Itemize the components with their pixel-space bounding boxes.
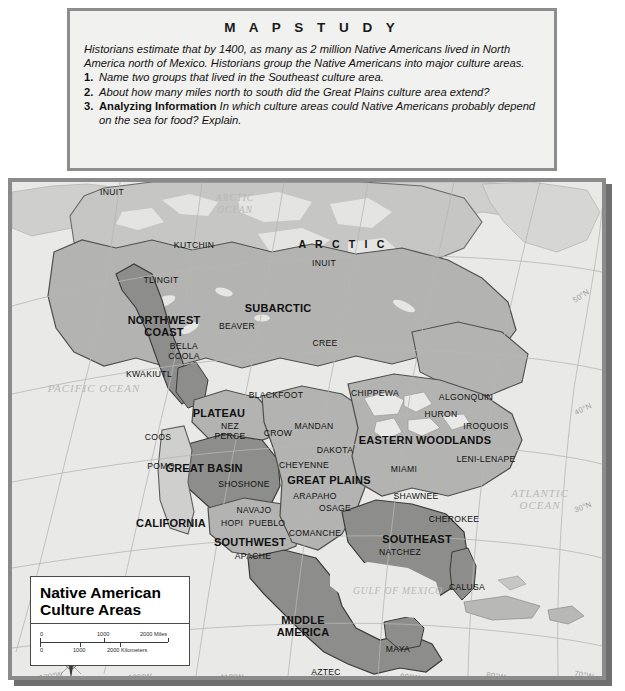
scale-tick <box>168 638 169 642</box>
question-text: Name two groups that lived in the Southe… <box>99 71 540 85</box>
question-text: Analyzing Information In which culture a… <box>99 100 540 127</box>
legend-divider <box>31 623 189 624</box>
question-lead-in: Analyzing Information <box>99 100 216 112</box>
map-legend-title: Native American Culture Areas <box>31 577 189 622</box>
question-number: 3. <box>84 100 99 127</box>
question-number: 2. <box>84 86 99 100</box>
compass-south-label: S <box>70 677 73 680</box>
scale-km-end: 2000 Kilometers <box>107 647 147 653</box>
question-number: 1. <box>84 71 99 85</box>
map-study-body: Historians estimate that by 1400, as man… <box>70 43 554 128</box>
map-study-box: M A P S T U D Y Historians estimate that… <box>67 8 557 171</box>
map-study-title: M A P S T U D Y <box>70 20 554 35</box>
legend-title-line-2: Culture Areas <box>40 601 180 618</box>
map-study-question-1: 1. Name two groups that lived in the Sou… <box>84 71 540 85</box>
question-text: About how many miles north to south did … <box>99 86 540 100</box>
map-study-question-2: 2. About how many miles north to south d… <box>84 86 540 100</box>
map-scale-bar: 0 1000 2000 Miles 0 1000 2000 Kilometers <box>40 628 180 664</box>
scale-tick <box>104 638 105 642</box>
scale-km-zero: 0 <box>40 647 43 653</box>
scale-miles-end: 2000 Miles <box>140 631 167 637</box>
scale-tick <box>40 638 41 642</box>
map-legend-box: Native American Culture Areas 0 1000 200… <box>30 576 190 666</box>
legend-title-line-1: Native American <box>40 584 180 601</box>
scale-km-mid: 1000 <box>73 647 85 653</box>
map-study-intro: Historians estimate that by 1400, as man… <box>84 43 540 70</box>
scale-miles-zero: 0 <box>40 631 43 637</box>
scale-miles-mid: 1000 <box>97 631 109 637</box>
scale-line-miles <box>40 642 168 643</box>
map-study-question-3: 3. Analyzing Information In which cultur… <box>84 100 540 127</box>
